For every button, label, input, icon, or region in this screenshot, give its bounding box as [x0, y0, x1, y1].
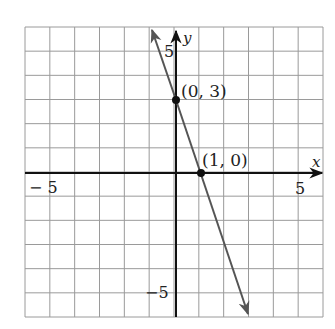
x-tick-label-neg5: − 5	[29, 178, 58, 197]
y-tick-label-neg5: −5	[145, 283, 169, 302]
point-label-0-3: (0, 3)	[181, 81, 227, 101]
point-label-1-0: (1, 0)	[202, 150, 248, 170]
x-axis-label: x	[312, 153, 321, 171]
x-tick-label-pos5: 5	[295, 179, 305, 198]
line-arrow-down	[176, 100, 248, 314]
point-1-0	[197, 169, 205, 177]
point-0-3	[172, 96, 180, 104]
coordinate-plane: (0, 3) (1, 0) x y − 5 5 5 −5	[0, 0, 335, 329]
y-tick-label-pos5: 5	[164, 42, 174, 61]
y-axis-label: y	[182, 29, 192, 47]
line-arrow-up	[152, 30, 176, 100]
